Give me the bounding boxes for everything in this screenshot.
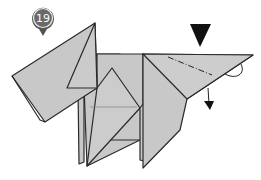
step-badge: 19 — [32, 8, 54, 36]
push-arrow-icon — [190, 24, 211, 47]
step-number: 19 — [36, 12, 50, 25]
fold-arrow-head-icon — [204, 101, 214, 110]
origami-diagram: 19 — [0, 0, 261, 180]
